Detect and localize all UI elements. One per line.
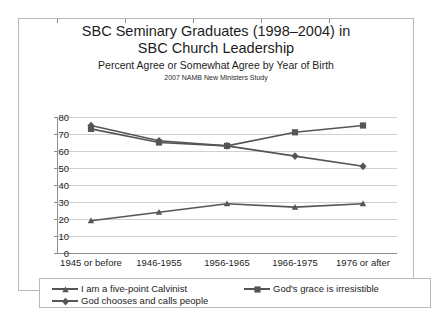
- data-point-marker: [292, 129, 298, 135]
- y-axis-label: 40: [29, 180, 69, 191]
- y-axis-label: 80: [29, 112, 69, 123]
- y-axis-label: 50: [29, 163, 69, 174]
- legend-item-label: God's grace is irresistible: [273, 283, 379, 294]
- legend-item-label: God chooses and calls people: [81, 295, 208, 306]
- data-point-marker: [360, 122, 366, 128]
- legend-item[interactable]: I am a five-point Calvinist: [52, 283, 187, 294]
- chart-source-note: 2007 NAMB New Ministers Study: [19, 73, 413, 82]
- x-axis-tick: [125, 19, 126, 23]
- y-axis-label: 20: [29, 214, 69, 225]
- legend-item-label: I am a five-point Calvinist: [81, 283, 187, 294]
- y-axis-label: 30: [29, 197, 69, 208]
- data-point-marker: [291, 152, 298, 160]
- y-axis-label: 70: [29, 129, 69, 140]
- plot-area: [57, 117, 397, 253]
- chart-legend: I am a five-point CalvinistGod's grace i…: [39, 278, 431, 308]
- x-axis-label: 1976 or after: [336, 257, 390, 268]
- legend-marker-square-icon: [244, 284, 270, 294]
- legend-marker-triangle-icon: [52, 284, 78, 294]
- series-lines: [57, 117, 397, 253]
- x-axis-label: 1946-1955: [136, 257, 181, 268]
- legend-marker-diamond-icon: [52, 296, 78, 306]
- chart-title-line-2: SBC Church Leadership: [19, 40, 413, 57]
- x-axis-label: 1966-1975: [272, 257, 317, 268]
- x-axis-tick: [261, 19, 262, 23]
- chart-title-block: SBC Seminary Graduates (1998–2004) in SB…: [19, 23, 413, 82]
- x-axis-line: [57, 253, 397, 254]
- y-axis-label: 10: [29, 231, 69, 242]
- chart-title-line-1: SBC Seminary Graduates (1998–2004) in: [19, 23, 413, 40]
- x-axis-tick: [329, 19, 330, 23]
- x-axis-tick: [193, 19, 194, 23]
- y-axis-label: 60: [29, 146, 69, 157]
- legend-item[interactable]: God's grace is irresistible: [244, 283, 379, 294]
- x-axis-label: 1956-1965: [204, 257, 249, 268]
- x-axis-tick: [57, 19, 58, 23]
- legend-item[interactable]: God chooses and calls people: [52, 295, 208, 306]
- chart-subtitle: Percent Agree or Somewhat Agree by Year …: [19, 58, 413, 72]
- x-axis-label: 1945 or before: [60, 257, 122, 268]
- chart-frame: SBC Seminary Graduates (1998–2004) in SB…: [18, 18, 414, 291]
- data-point-marker: [359, 162, 366, 170]
